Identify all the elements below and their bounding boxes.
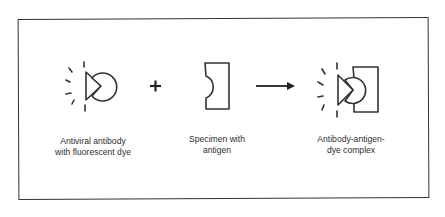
- specimen-label: Specimen with antigen: [172, 134, 262, 156]
- specimen-antigen-icon: [205, 63, 229, 109]
- plus-icon: [150, 81, 161, 92]
- arrow-right-icon: [256, 82, 295, 90]
- diagram-canvas: [0, 0, 445, 217]
- complex-label: Antibody-antigen- dye complex: [303, 134, 399, 156]
- antibody-with-dye-icon: [66, 62, 117, 111]
- antibody-label: Antiviral antibody with fluorescent dye: [38, 136, 148, 158]
- antibody-antigen-complex-icon: [318, 63, 378, 117]
